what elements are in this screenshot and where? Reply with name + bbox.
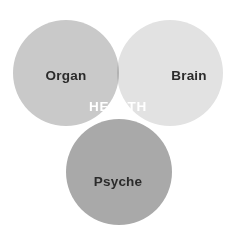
venn-circles-canvas	[0, 0, 237, 236]
venn-diagram-figure: Organ Brain Psyche HEALTH	[0, 0, 237, 236]
circle-organ[interactable]	[13, 20, 119, 126]
circle-psyche[interactable]	[66, 119, 172, 225]
circle-brain[interactable]	[117, 20, 223, 126]
